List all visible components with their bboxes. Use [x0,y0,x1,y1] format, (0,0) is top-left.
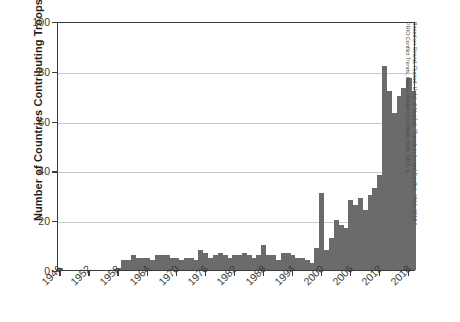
chart-figure: Number of Countries Contributing Troops … [0,0,460,322]
y-tick-label: 60 [16,116,50,128]
y-tick-label: 80 [16,66,50,78]
plot-area [57,22,415,271]
source-credit-line-2: PRIO Conflict Trends, Peace Research Ins… [405,22,412,271]
y-tick-label: 20 [16,215,50,227]
y-tick-label: 100 [16,16,50,28]
source-credit-line-1: Based on Strand, Rustad, Urdal, & Nygård… [411,22,418,271]
y-tick-label: 40 [16,165,50,177]
source-credit: Based on Strand, Rustad, Urdal, & Nygård… [398,22,418,271]
bar-series [58,23,414,270]
